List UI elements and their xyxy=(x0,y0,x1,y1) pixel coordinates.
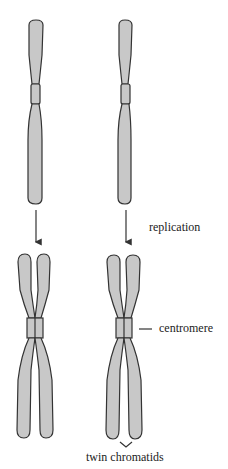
replication-label: replication xyxy=(149,220,200,235)
centromere-label: centromere xyxy=(159,321,213,336)
single-chromosome-right xyxy=(118,20,132,204)
replicated-chromosome-left xyxy=(17,254,53,438)
single-chromosome-left xyxy=(28,20,43,204)
replicated-chromosome-right xyxy=(106,255,142,439)
twin-chromatids-label: twin chromatids xyxy=(86,450,164,465)
chromatid-bracket xyxy=(120,442,132,447)
